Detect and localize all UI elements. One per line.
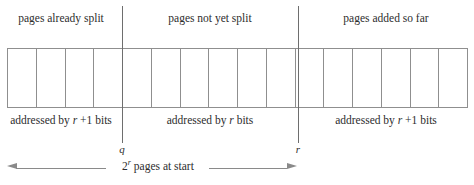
arrow-right-head-icon — [287, 163, 297, 169]
top-label-pages-already-split: pages already split — [0, 11, 122, 25]
page-cell — [66, 49, 95, 107]
marker-label-r: r — [296, 143, 300, 155]
page-cell — [152, 49, 181, 107]
addr-left-prefix: addressed by — [10, 114, 73, 126]
page-cell — [267, 49, 296, 107]
addr-left-suffix: +1 bits — [77, 114, 112, 126]
page-cell — [353, 49, 382, 107]
page-cell — [296, 49, 325, 107]
addr-right-suffix: +1 bits — [402, 114, 437, 126]
bottom-label-addressed-middle: addressed by r bits — [122, 113, 298, 127]
page-cell — [94, 49, 123, 107]
page-cell — [209, 49, 238, 107]
top-label-pages-added-so-far: pages added so far — [298, 11, 474, 25]
page-cell — [8, 49, 37, 107]
page-cell — [324, 49, 353, 107]
page-cell — [238, 49, 267, 107]
dimension-line-right — [209, 168, 287, 169]
page-cell — [37, 49, 66, 107]
page-split-diagram: pages already split pages not yet split … — [0, 0, 474, 185]
addr-middle-suffix: bits — [234, 114, 254, 126]
page-cell — [181, 49, 210, 107]
page-cell — [411, 49, 440, 107]
addr-middle-prefix: addressed by — [167, 114, 230, 126]
page-cell — [123, 49, 152, 107]
marker-label-q: q — [119, 143, 125, 155]
addr-right-prefix: addressed by — [335, 114, 398, 126]
bottom-label-addressed-right: addressed by r +1 bits — [298, 113, 474, 127]
bottom-label-addressed-left: addressed by r +1 bits — [0, 113, 122, 127]
dimension-line-left — [16, 168, 106, 169]
dimension-text-suffix: pages at start — [131, 160, 194, 172]
page-cell — [382, 49, 411, 107]
page-strip — [7, 48, 468, 108]
top-label-pages-not-yet-split: pages not yet split — [122, 11, 298, 25]
page-cell — [439, 49, 467, 107]
dimension-arrow: 2r pages at start — [4, 160, 304, 178]
dimension-label: 2r pages at start — [108, 160, 208, 172]
